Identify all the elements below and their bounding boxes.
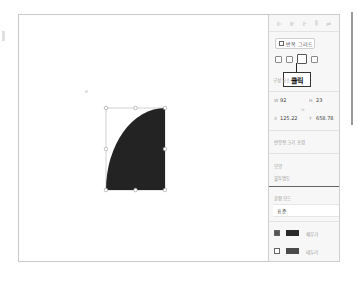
border-label: 테두리 (306, 249, 318, 255)
x-field[interactable]: 125.22 (280, 115, 298, 121)
union-icon[interactable] (275, 56, 282, 63)
divider (269, 221, 339, 222)
divider (269, 153, 339, 154)
blend-mode-label: 혼합 모드 (274, 195, 291, 201)
align-center-icon[interactable]: ⊪ (290, 20, 295, 27)
canvas-dot (85, 90, 88, 93)
y-label: Y (309, 116, 312, 121)
resize-handle-l (104, 147, 108, 151)
height-field[interactable]: 23 (316, 97, 322, 103)
fill-checkbox[interactable] (274, 230, 280, 236)
y-field[interactable]: 658.78 (316, 115, 334, 121)
resize-handle-t (134, 106, 138, 110)
resize-handle-br (163, 188, 167, 192)
divider (269, 130, 339, 131)
opacity-slider[interactable] (269, 186, 339, 187)
quarter-circle-shape (106, 108, 165, 190)
divider (269, 91, 339, 92)
width-field[interactable]: 92 (280, 97, 286, 103)
border-checkbox[interactable] (274, 248, 280, 254)
resize-handle-tr (163, 106, 167, 110)
repeat-grid-button[interactable]: 반복 그리드 (275, 38, 315, 49)
resize-handle-tl (104, 106, 108, 110)
align-toolbar: ⊫ ⊪ ⊩ ⫼ ⇌ (269, 15, 339, 32)
grid-icon (279, 41, 284, 46)
lock-aspect-icon[interactable]: ∞ (301, 107, 305, 112)
boolean-ops (275, 54, 339, 64)
property-inspector: ⊫ ⊪ ⊩ ⫼ ⇌ 반복 그리드 클릭 구성 요소 W 92 H 23 ∞ X … (268, 14, 340, 262)
fill-label: 채우기 (306, 231, 318, 237)
distribute-icon[interactable]: ⫼ (315, 19, 318, 27)
scrollbar[interactable] (351, 12, 353, 125)
x-label: X (274, 116, 277, 121)
left-edge-mark (2, 31, 5, 41)
subtract-icon[interactable] (286, 56, 293, 63)
repeat-grid-label: 반복 그리드 (286, 40, 313, 47)
align-right-icon[interactable]: ⊩ (303, 20, 308, 27)
resize-handle-b (134, 188, 138, 192)
align-left-icon[interactable]: ⊫ (277, 20, 282, 27)
border-color-swatch[interactable] (286, 248, 299, 254)
intersect-icon[interactable] (297, 54, 307, 64)
component-label: 구성 요소 (273, 77, 290, 83)
h-label: H (309, 98, 312, 103)
fill-color-swatch[interactable] (286, 230, 299, 236)
resize-handle-bl (104, 188, 108, 192)
selected-shape[interactable] (106, 108, 165, 190)
appearance-label: 모양 (274, 163, 282, 169)
exclude-icon[interactable] (311, 56, 318, 63)
blend-mode-dropdown[interactable]: 표준 (273, 204, 339, 217)
opacity-label: 불투명도 (274, 175, 290, 181)
more-icon[interactable]: ⇌ (326, 20, 331, 27)
resize-handle-r (163, 147, 167, 151)
w-label: W (274, 98, 278, 103)
responsive-resize-label[interactable]: 반응형 크기 조정 (274, 139, 305, 145)
